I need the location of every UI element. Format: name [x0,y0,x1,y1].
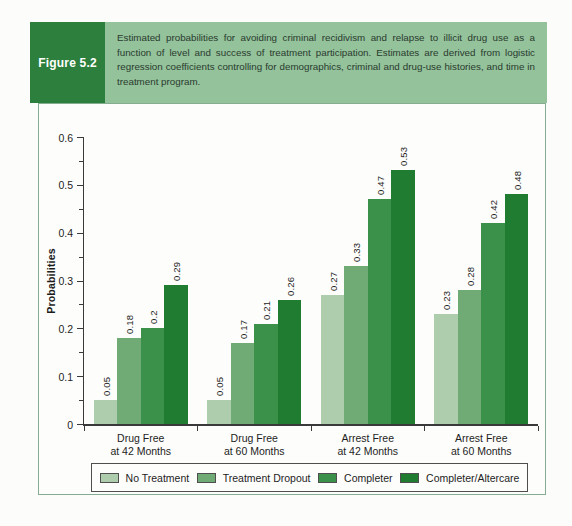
figure-number-label: Figure 5.2 [38,56,97,70]
legend-swatch [318,473,337,483]
legend-item: Treatment Dropout [197,472,311,484]
figure-number-box: Figure 5.2 [30,22,105,103]
x-category-line2: at 60 Months [198,445,312,458]
legend-swatch [400,473,419,483]
x-category-line2: at 42 Months [311,445,425,458]
legend-swatch [100,473,119,483]
legend: No TreatmentTreatment DropoutCompleterCo… [91,463,528,492]
legend-label: Completer/Altercare [426,472,519,484]
x-category-label: Arrest Freeat 60 Months [425,432,539,458]
figure-5-2: Figure 5.2 Estimated probabilities for a… [30,22,548,497]
figure-caption: Estimated probabilities for avoiding cri… [105,22,547,103]
x-category-line2: at 42 Months [84,445,198,458]
x-category-line1: Arrest Free [311,432,425,445]
x-category-line1: Arrest Free [425,432,539,445]
legend-label: No Treatment [126,472,190,484]
legend-label: Treatment Dropout [223,472,311,484]
legend-item: Completer/Altercare [400,472,519,484]
figure-header: Figure 5.2 Estimated probabilities for a… [30,22,547,103]
x-category-label: Arrest Freeat 42 Months [311,432,425,458]
x-axis-labels: Drug Freeat 42 MonthsDrug Freeat 60 Mont… [39,104,545,494]
legend-swatch [197,473,216,483]
legend-label: Completer [344,472,392,484]
x-category-line1: Drug Free [84,432,198,445]
chart-area: Probabilities 00.10.20.30.40.50.6 0.050.… [38,103,546,495]
x-category-line2: at 60 Months [425,445,539,458]
x-category-line1: Drug Free [198,432,312,445]
legend-item: No Treatment [100,472,190,484]
legend-item: Completer [318,472,392,484]
x-category-label: Drug Freeat 42 Months [84,432,198,458]
x-category-label: Drug Freeat 60 Months [198,432,312,458]
